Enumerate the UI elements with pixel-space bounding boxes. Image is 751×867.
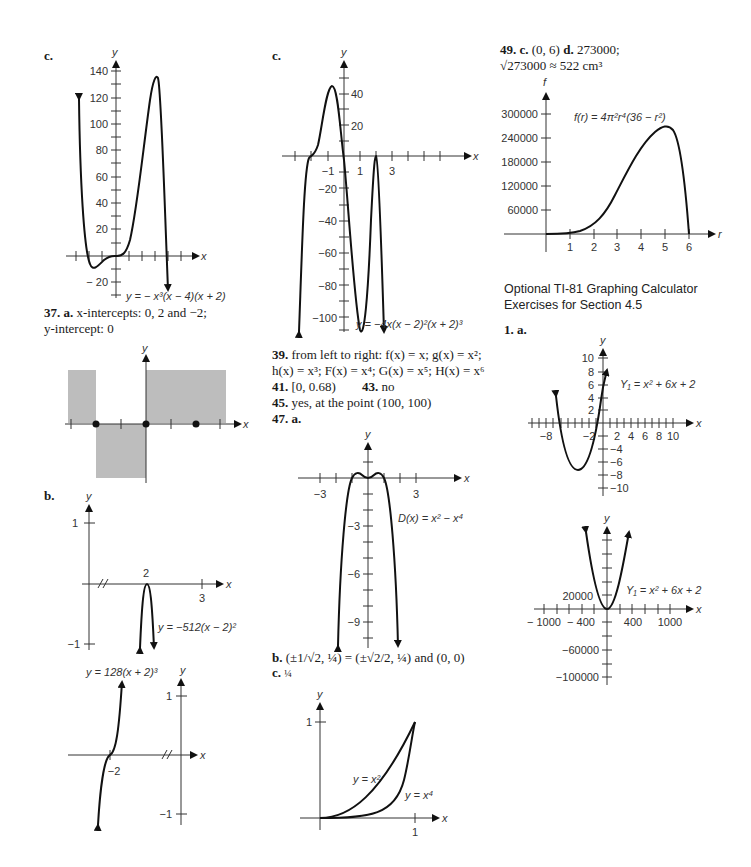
svg-text:− 400: − 400: [567, 616, 595, 628]
section-heading-line2: Exercises for Section 4.5: [504, 297, 642, 313]
svg-text:−60: −60: [318, 247, 337, 259]
exercise-37-y-intercept: y-intercept: 0: [44, 321, 114, 336]
svg-text:y = 128(x + 2)³: y = 128(x + 2)³: [85, 666, 158, 678]
exercise-39: 39. from left to right: f(x) = x; g(x) =…: [272, 347, 482, 362]
svg-text:Y₁ = x² + 6x + 2: Y₁ = x² + 6x + 2: [620, 378, 695, 390]
svg-text:3: 3: [614, 241, 620, 253]
y-axis-label: y: [141, 342, 149, 354]
exercise-45: 45. yes, at the point (100, 100): [272, 395, 431, 410]
exercise-47b: b. (±1/√2, ¼) = (±√2/2, ¼) and (0, 0): [272, 650, 465, 665]
svg-text:4: 4: [638, 241, 644, 253]
svg-text:−20: −20: [318, 183, 337, 195]
svg-text:Y₁ = x² + 6x + 2: Y₁ = x² + 6x + 2: [626, 584, 701, 596]
svg-text:1000: 1000: [658, 616, 682, 628]
svg-text:y = −4x(x − 2)²(x + 2)³: y = −4x(x − 2)²(x + 2)³: [355, 318, 463, 330]
svg-text:y = x⁴: y = x⁴: [404, 789, 434, 801]
graph-1b: y x 20000 −60000 −100000 − 1000 − 400 40…: [490, 500, 751, 700]
svg-text:1: 1: [166, 690, 172, 702]
svg-text:120000: 120000: [501, 180, 538, 192]
graph-1a: y x 10 8 6 4 2 −4 −6 −8 −10 −8 −2 2 4 6 …: [490, 320, 751, 500]
svg-text:y = −512(x − 2)²: y = −512(x − 2)²: [157, 621, 236, 633]
svg-text:x: x: [463, 472, 470, 484]
svg-text:2: 2: [588, 404, 594, 416]
svg-text:40: 40: [96, 197, 108, 209]
sign-chart: y x: [0, 340, 260, 490]
svg-text:−1: −1: [159, 808, 172, 820]
svg-text:y: y: [340, 46, 348, 58]
svg-text:120: 120: [90, 92, 108, 104]
svg-text:1: 1: [357, 165, 363, 177]
svg-text:140: 140: [90, 65, 108, 77]
svg-text:x: x: [695, 417, 702, 429]
x-axis-label: x: [242, 418, 249, 430]
svg-text:8: 8: [656, 430, 662, 442]
svg-text:8: 8: [588, 366, 594, 378]
svg-text:100: 100: [90, 118, 108, 130]
svg-text:−80: −80: [318, 280, 337, 292]
svg-text:400: 400: [624, 616, 642, 628]
svg-text:x: x: [441, 812, 448, 824]
graph-c-degree6: y x 40 20 −20 −40 −60 −80 −100 −1 1 3 y …: [250, 0, 500, 340]
svg-text:10: 10: [667, 430, 679, 442]
svg-text:2: 2: [614, 430, 620, 442]
svg-text:x: x: [225, 578, 232, 590]
svg-text:−8: −8: [610, 469, 623, 481]
svg-text:2: 2: [591, 241, 597, 253]
svg-text:y: y: [316, 688, 324, 700]
svg-text:6: 6: [686, 241, 692, 253]
svg-text:x: x: [695, 603, 702, 615]
svg-text:1: 1: [306, 716, 312, 728]
equation-label: y = − x³(x − 4)(x + 2): [125, 290, 226, 302]
exercise-41: 41. [0, 0.68): [272, 379, 336, 394]
exercise-39-line2: h(x) = x³; F(x) = x⁴; G(x) = x⁵; H(x) = …: [272, 363, 485, 378]
svg-text:−100: −100: [312, 312, 337, 324]
svg-text:6: 6: [588, 379, 594, 391]
svg-text:− 20: − 20: [86, 276, 108, 288]
svg-text:20: 20: [351, 120, 363, 132]
svg-text:−4: −4: [610, 443, 623, 455]
svg-text:180000: 180000: [501, 156, 538, 168]
svg-text:−9: −9: [347, 616, 360, 628]
svg-text:240000: 240000: [501, 132, 538, 144]
svg-text:−100000: −100000: [556, 671, 599, 683]
graph-47a: y x −3 3 −3 −6 −9 D(x) = x² − x⁴: [270, 420, 500, 650]
graph-c-quintic: y x 140 120 100 80 60 40 20 − 20 y = − x…: [0, 0, 250, 310]
svg-text:x: x: [472, 150, 479, 162]
section-heading-line1: Optional TI-81 Graphing Calculator: [504, 281, 698, 297]
svg-text:y: y: [599, 334, 607, 346]
exercise-47c: c. ¼: [272, 665, 292, 681]
svg-text:1: 1: [567, 241, 573, 253]
svg-text:3: 3: [199, 592, 205, 604]
svg-text:1: 1: [72, 517, 78, 529]
svg-text:−1: −1: [322, 165, 335, 177]
svg-text:4: 4: [588, 392, 594, 404]
svg-text:80: 80: [96, 144, 108, 156]
graph-47c: y x 1 1 y = x² y = x⁴: [270, 680, 500, 867]
svg-text:2: 2: [143, 567, 149, 579]
svg-text:10: 10: [582, 352, 594, 364]
svg-text:r: r: [718, 228, 723, 240]
graph-49: f r 300000 240000 180000 120000 60000 1 …: [490, 0, 751, 270]
svg-text:f(r) = 4π²r⁴(36 − r²): f(r) = 4π²r⁴(36 − r²): [574, 111, 666, 123]
svg-text:3: 3: [389, 165, 395, 177]
exercise-43: 43. no: [362, 379, 395, 394]
svg-text:−40: −40: [318, 215, 337, 227]
svg-text:− 1000: − 1000: [527, 616, 561, 628]
svg-text:1: 1: [412, 826, 418, 838]
svg-text:y: y: [364, 428, 372, 440]
svg-text:D(x) = x² − x⁴: D(x) = x² − x⁴: [398, 512, 464, 524]
graph-b-cubic: y = 128(x + 2)³ y x 1 −1 −2: [0, 640, 260, 867]
svg-text:y: y: [603, 512, 611, 524]
svg-text:20000: 20000: [562, 590, 593, 602]
svg-text:4: 4: [628, 430, 634, 442]
svg-text:60: 60: [96, 171, 108, 183]
svg-text:−6: −6: [610, 456, 623, 468]
svg-text:−2: −2: [108, 765, 121, 777]
svg-text:5: 5: [662, 241, 668, 253]
svg-text:20: 20: [96, 223, 108, 235]
svg-text:−3: −3: [314, 488, 327, 500]
svg-text:−60000: −60000: [562, 644, 599, 656]
svg-text:6: 6: [642, 430, 648, 442]
x-axis-label: x: [200, 250, 207, 262]
svg-text:3: 3: [413, 488, 419, 500]
